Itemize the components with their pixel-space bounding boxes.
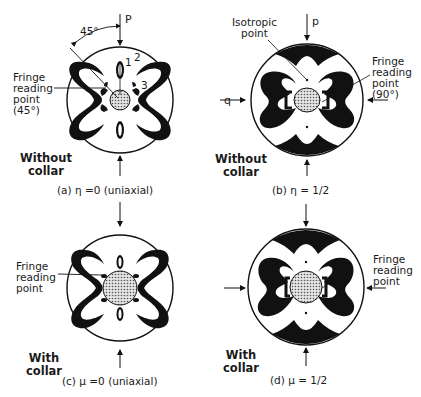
fringe-order-3: 3 [141,80,148,91]
panel-d-diagram [224,204,386,366]
fringe-reading-point-label: Fringe reading point (45°) [13,72,53,116]
panel-c-caption: (c) μ =0 (uniaxial) [62,375,157,387]
fringe-reading-point-label: Fringe reading point [16,261,56,294]
fringe-reading-point-label: Fringe reading point [373,254,413,287]
load-label-q: q [224,94,231,107]
isotropic-point-dot-lower [306,126,308,128]
condition-label: With collar [223,349,259,375]
condition-label: Without collar [20,152,72,178]
isotropic-point-dot [306,79,308,81]
figure-graphics [0,0,421,397]
load-label-p: p [312,15,319,28]
isotropic-point-dot [305,261,307,263]
panel-d-caption: (d) μ = 1/2 [270,374,327,386]
fringe-order-2: 2 [134,52,141,63]
isotropic-point-dot-lower [305,312,307,314]
center-hole [290,271,322,303]
isotropic-point-label: Isotropic point [232,17,277,39]
fringe-order-1: 1 [125,57,132,68]
panel-b-caption: (b) η = 1/2 [272,184,329,196]
angle-label: 45° [80,26,99,37]
condition-label: Without collar [215,153,267,179]
load-label-p: P [125,13,132,26]
center-hole [103,271,137,305]
panel-a-caption: (a) η =0 (uniaxial) [57,184,153,196]
fringe-reading-point-label: Fringe reading point (90°) [372,56,412,100]
condition-label: With collar [26,352,62,378]
photoelastic-figure: P 45° 1 2 3 Fringe reading point (45°) W… [0,0,421,397]
center-hole [294,88,320,112]
panel-c-diagram [58,202,173,368]
